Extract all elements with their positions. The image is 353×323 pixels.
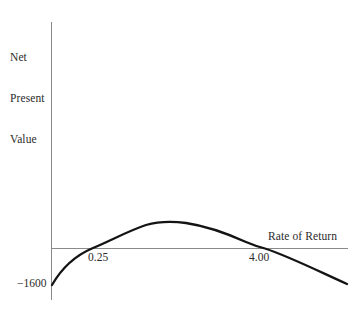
chart-plot-area xyxy=(0,0,353,323)
x-tick-label-1: 4.00 xyxy=(249,251,269,265)
y-axis-label: Net Present Value xyxy=(10,24,45,173)
y-axis-label-line-1: Net xyxy=(10,51,45,65)
y-axis-label-line-2: Present xyxy=(10,92,45,106)
y-tick-label-0: −1600 xyxy=(17,277,47,291)
y-axis-label-line-3: Value xyxy=(10,133,45,147)
x-axis-label: Rate of Return xyxy=(268,230,337,244)
x-tick-label-0: 0.25 xyxy=(88,251,108,265)
npv-chart: Net Present Value Rate of Return 0.25 4.… xyxy=(0,0,353,323)
